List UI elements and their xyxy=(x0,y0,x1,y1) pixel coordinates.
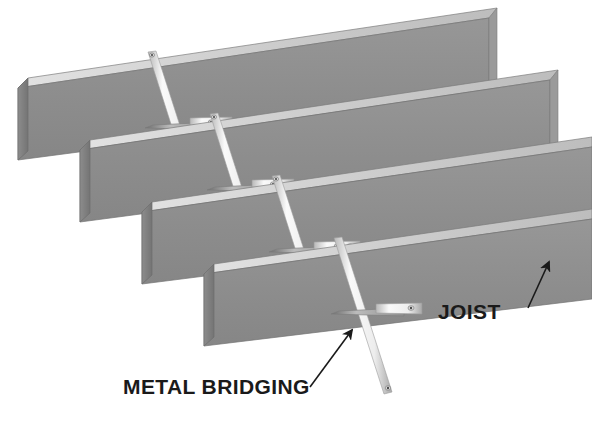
joist-bridging-figure: JOIST METAL BRIDGING xyxy=(0,0,592,429)
bridging-4-strap-b-tab-arm xyxy=(376,303,422,314)
bridging-3-strap-a-nail-hole xyxy=(275,178,277,180)
illustration-canvas: JOIST METAL BRIDGING xyxy=(0,0,592,429)
bridging-1-strap-a-nail-hole xyxy=(151,54,153,56)
bridging-2-strap-a-nail-hole xyxy=(213,116,215,118)
joist-2-left-end xyxy=(80,140,90,222)
joist-label: JOIST xyxy=(438,300,501,323)
bridging-4-nail-hole xyxy=(410,307,412,309)
bridging-4-strap-a-nail-hole xyxy=(387,387,389,389)
metal-bridging-label: METAL BRIDGING xyxy=(123,375,310,398)
joist-3-left-end xyxy=(142,202,152,284)
joist-4-left-end xyxy=(204,264,214,346)
joist-1-left-end xyxy=(18,78,28,160)
